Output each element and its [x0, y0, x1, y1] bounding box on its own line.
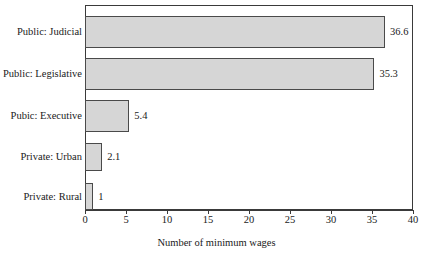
x-tick-label: 10: [162, 215, 173, 226]
bar-value-label: 36.6: [390, 27, 408, 38]
x-tick-label: 25: [285, 215, 296, 226]
bar-value-label: 5.4: [134, 111, 147, 122]
bar: [85, 58, 374, 90]
x-tick-label: 15: [203, 215, 214, 226]
x-tick-label: 20: [244, 215, 255, 226]
bar: [85, 143, 102, 171]
x-tick-label: 30: [326, 215, 337, 226]
category-label-text: Public: Legislative: [3, 69, 82, 80]
category-label-text: Private: Rural: [23, 192, 82, 203]
x-tick-label: 0: [82, 215, 87, 226]
category-label-text: Public: Judicial: [17, 27, 82, 38]
bar: [85, 16, 385, 48]
category-label-text: Private: Urban: [20, 152, 82, 163]
bar-chart: 36.635.35.42.11 Public: JudicialPublic: …: [0, 0, 433, 262]
category-label-text: Pubic: Executive: [11, 111, 82, 122]
bar: [85, 183, 93, 210]
bar-value-label: 35.3: [379, 69, 397, 80]
x-tick-label: 35: [367, 215, 378, 226]
bar-value-label: 1: [98, 192, 103, 203]
x-axis-title: Number of minimum wages: [0, 238, 433, 249]
x-tick-label: 40: [408, 215, 419, 226]
bar: [85, 100, 129, 132]
x-tick-label: 5: [123, 215, 128, 226]
bar-value-label: 2.1: [107, 152, 120, 163]
